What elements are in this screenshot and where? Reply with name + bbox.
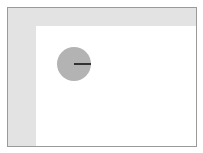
game-frame [7,7,197,147]
playfield[interactable] [36,26,196,146]
